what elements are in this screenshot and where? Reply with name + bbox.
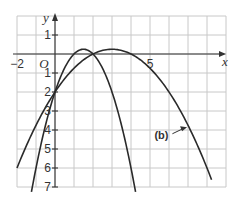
x-tick-label: −2 (10, 57, 24, 71)
y-tick-label: 1 (44, 66, 51, 80)
y-tick-label: 6 (44, 161, 51, 175)
curve-b-label: (b) (154, 129, 168, 141)
y-tick-label: 7 (44, 180, 51, 194)
x-axis-label: x (221, 54, 228, 69)
labels: yxO−2511234567(b) (10, 10, 228, 194)
y-tick-label: 1 (44, 28, 51, 42)
graph: yxO−2511234567(b) (0, 0, 236, 201)
y-tick-label: 4 (44, 123, 51, 137)
y-tick-label: 3 (44, 104, 51, 118)
x-tick-label: 5 (147, 57, 154, 71)
y-tick-label: 5 (44, 142, 51, 156)
y-tick-label: 2 (44, 85, 51, 99)
y-axis-arrow-icon (52, 13, 58, 21)
y-axis-label: y (41, 10, 49, 25)
